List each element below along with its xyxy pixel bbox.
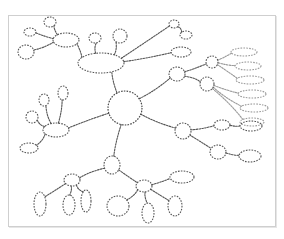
connector-line — [114, 42, 116, 55]
mind-map-node — [63, 195, 75, 215]
mind-map-node — [142, 203, 154, 223]
mind-map-node — [175, 123, 191, 139]
connector-line — [185, 64, 207, 72]
mind-map-node — [34, 192, 46, 216]
mind-map-node — [58, 86, 68, 100]
mind-map-node — [44, 17, 56, 27]
mind-map-node — [231, 48, 257, 56]
mind-map-node — [214, 120, 230, 130]
mind-map-node — [20, 143, 38, 153]
connector-line — [185, 76, 201, 82]
connector-line — [145, 192, 147, 203]
connector-line — [218, 53, 232, 60]
mind-map-node — [170, 171, 194, 183]
connector-line — [95, 43, 96, 53]
connector-line — [58, 100, 62, 123]
connector-line — [77, 44, 82, 58]
mind-map-node — [200, 77, 214, 91]
mind-map-node — [235, 62, 261, 70]
connector-line — [37, 120, 44, 127]
connector-line — [68, 113, 108, 128]
mind-map-node — [107, 196, 129, 216]
canvas — [0, 0, 284, 239]
connector-line — [46, 106, 51, 124]
mind-map-node — [78, 53, 124, 73]
connector-line — [214, 86, 239, 94]
connector-line — [141, 114, 176, 128]
connector-line — [230, 125, 240, 126]
mind-map-node — [104, 156, 120, 174]
connector-line — [80, 168, 105, 178]
mind-map-node — [18, 45, 34, 59]
mind-map-node — [169, 20, 179, 28]
central-node — [108, 91, 142, 125]
mind-map-node — [239, 150, 261, 162]
connector-line — [114, 125, 121, 157]
connector-line — [191, 126, 214, 130]
connector-line — [70, 186, 72, 195]
mind-map-node — [26, 111, 38, 123]
connector-line — [190, 135, 211, 148]
mind-map-node — [136, 180, 152, 192]
connector-line — [36, 33, 53, 39]
connector-line — [112, 72, 117, 93]
connector-line — [218, 63, 235, 66]
connector-line — [121, 26, 169, 58]
connector-line — [127, 190, 138, 200]
mind-map-node — [168, 196, 182, 216]
mind-map-node — [113, 29, 127, 43]
mind-map-diagram — [0, 0, 284, 239]
mind-map-node — [171, 47, 191, 57]
connector-line — [37, 134, 46, 145]
mind-map-node — [238, 90, 266, 98]
mind-map-node — [24, 28, 36, 36]
mind-map-node — [89, 33, 101, 43]
connector-line — [119, 170, 138, 183]
mind-map-node — [39, 94, 49, 106]
connector-line — [226, 153, 239, 155]
mind-map-node — [169, 67, 185, 81]
connector-line — [124, 53, 171, 62]
mind-map-node — [53, 33, 79, 47]
mind-map-node — [210, 145, 226, 159]
mind-map-node — [236, 76, 264, 84]
mind-map-node — [206, 56, 218, 68]
mind-map-node — [64, 174, 80, 186]
connector-line — [139, 78, 170, 99]
connector-line — [217, 65, 237, 79]
connector-line — [76, 185, 83, 192]
mind-map-node — [81, 190, 91, 212]
node-layer — [18, 17, 268, 223]
connector-line — [45, 184, 66, 197]
connector-line — [152, 178, 171, 184]
mind-map-node — [240, 104, 268, 112]
connector-line — [151, 189, 169, 200]
connector-line — [178, 27, 182, 33]
connector-line — [34, 42, 54, 50]
mind-map-node — [43, 123, 69, 137]
connector-line — [54, 26, 57, 35]
